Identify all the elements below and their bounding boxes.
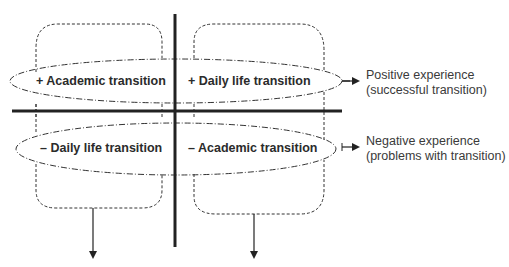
right-group-box-bottom: [194, 160, 324, 214]
right-group-box: [194, 24, 324, 70]
negative-outcome-label: Negative experience (problems with trans…: [366, 134, 506, 164]
quadrant-top-left-label: + Academic transition: [36, 74, 166, 88]
left-group-box-bottom: [36, 164, 162, 208]
positive-outcome-label: Positive experience (successful transiti…: [366, 68, 487, 98]
quadrant-bottom-left-label: – Daily life transition: [40, 141, 162, 155]
left-group-box: [36, 24, 162, 72]
negative-outcome-line2: (problems with transition): [366, 149, 506, 164]
negative-outcome-line1: Negative experience: [366, 134, 506, 149]
quadrant-top-right-label: + Daily life transition: [188, 74, 311, 88]
quadrant-bottom-right-label: – Academic transition: [188, 141, 317, 155]
positive-outcome-line1: Positive experience: [366, 68, 487, 83]
positive-outcome-line2: (successful transition): [366, 83, 487, 98]
